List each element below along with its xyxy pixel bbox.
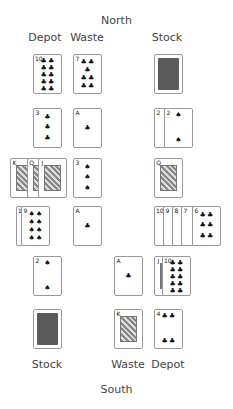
card-rank: 7 [183, 208, 188, 214]
south-depot-card[interactable]: 4 ♣♣♣♣ [154, 309, 183, 349]
tableau-card[interactable]: 9♠♠♠♠♠♠♠♠ [21, 206, 50, 246]
face-card-art [160, 165, 177, 191]
card-rank: 9 [165, 208, 170, 214]
north-depot-card[interactable]: 10 ♣♣♣♣♣♣♣♣♣♣ [33, 54, 62, 94]
face-card-art [44, 165, 61, 191]
north-label: North [0, 14, 233, 27]
tableau-card[interactable]: J [38, 158, 67, 198]
card-back [37, 313, 58, 345]
tableau-card[interactable]: Q [154, 158, 183, 198]
south-label: South [0, 383, 233, 396]
tableau-card[interactable]: A ♣ [73, 206, 102, 246]
tableau-card[interactable]: 6 ♣♣♣♣♣♣ [192, 206, 221, 246]
south-depot-label: Depot [151, 358, 185, 371]
south-waste-card[interactable]: K [114, 309, 143, 349]
card-rank: 2 [156, 110, 161, 116]
tableau-card[interactable]: 10 ♣♣♣♣♣♣♣♣♣♣ [162, 256, 191, 296]
north-stock-pile[interactable] [154, 54, 183, 94]
tableau-card[interactable]: A ♣ [73, 108, 102, 148]
north-stock-label: Stock [150, 31, 184, 44]
south-stock-label: Stock [30, 358, 64, 371]
tableau-card[interactable]: 3 ♣♣♣ [33, 108, 62, 148]
north-waste-label: Waste [70, 31, 104, 44]
south-stock-pile[interactable] [33, 309, 62, 349]
tableau-card[interactable]: 2 ♠♠ [164, 108, 193, 148]
card-rank: 10 [156, 208, 161, 214]
south-waste-label: Waste [111, 358, 145, 371]
card-back [158, 58, 179, 90]
face-card-art [120, 316, 137, 342]
tableau-card[interactable]: 3 ♠♠♠ [73, 158, 102, 198]
tableau-card[interactable]: 2 ♠♠ [33, 256, 62, 296]
north-waste-card[interactable]: 7 ♣♣♣♣♣♣♣ [73, 54, 102, 94]
north-depot-label: Depot [28, 31, 62, 44]
tableau-card[interactable]: A ♣ [114, 256, 143, 296]
card-rank: 8 [174, 208, 179, 214]
